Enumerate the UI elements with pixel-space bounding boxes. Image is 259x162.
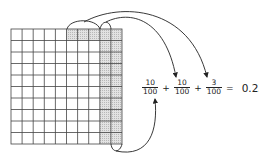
equals-sign: = bbox=[226, 83, 234, 93]
fraction-1: 10 100 bbox=[142, 79, 158, 96]
result: 0.23 bbox=[242, 82, 259, 94]
fraction-3: 3 100 bbox=[206, 79, 222, 96]
fraction-2: 10 100 bbox=[174, 79, 190, 96]
plus-sign: + bbox=[162, 83, 170, 93]
plus-sign: + bbox=[194, 83, 202, 93]
equation: 10 100 + 10 100 + 3 100 = 0.23 bbox=[142, 79, 259, 96]
